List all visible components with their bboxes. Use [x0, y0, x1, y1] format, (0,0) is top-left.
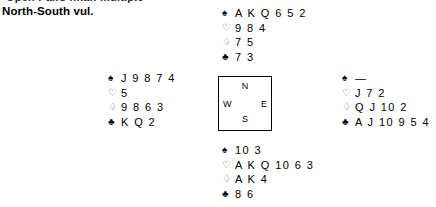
hand-south-clubs: 8 6 — [235, 187, 255, 202]
hand-west-clubs: K Q 2 — [121, 115, 156, 130]
vulnerability-label: North-South vul. — [2, 5, 94, 17]
hand-west-spades: J 9 8 7 4 — [121, 71, 176, 86]
hand-south: ♠ 10 3 ♡ A K Q 10 6 3 ♢ A K 4 ♣ 8 6 — [222, 143, 314, 201]
hand-north-club-row: ♣ 7 3 — [222, 50, 307, 65]
hand-east: ♠ — ♡ J 7 2 ♢ Q J 10 2 ♣ A J 10 9 5 4 — [342, 71, 430, 129]
compass-label-west: W — [223, 99, 232, 108]
club-icon: ♣ — [222, 50, 235, 65]
hand-south-hearts: A K Q 10 6 3 — [235, 158, 314, 173]
hand-south-diamonds: A K 4 — [235, 172, 268, 187]
hand-east-spades: — — [355, 71, 366, 86]
hand-south-spades: 10 3 — [235, 143, 262, 158]
compass-label-east: E — [261, 99, 267, 108]
diamond-icon: ♢ — [222, 35, 235, 50]
club-icon: ♣ — [108, 115, 121, 130]
hand-west-heart-row: ♡ 5 — [108, 86, 176, 101]
hand-east-spade-row: ♠ — — [342, 71, 430, 86]
spade-icon: ♠ — [108, 71, 121, 86]
hand-east-heart-row: ♡ J 7 2 — [342, 86, 430, 101]
diamond-icon: ♢ — [108, 100, 121, 115]
hand-north-spade-row: ♠ A K Q 6 5 2 — [222, 6, 307, 21]
heart-icon: ♡ — [222, 158, 235, 173]
hand-east-clubs: A J 10 9 5 4 — [355, 115, 430, 130]
heart-icon: ♡ — [342, 86, 355, 101]
hand-north-heart-row: ♡ 9 8 4 — [222, 21, 307, 36]
spade-icon: ♠ — [222, 6, 235, 21]
spade-icon: ♠ — [222, 143, 235, 158]
heart-icon: ♡ — [108, 86, 121, 101]
hand-west-club-row: ♣ K Q 2 — [108, 115, 176, 130]
hand-north-spades: A K Q 6 5 2 — [235, 6, 307, 21]
club-icon: ♣ — [222, 187, 235, 202]
hand-north-clubs: 7 3 — [235, 50, 255, 65]
clipped-header-line: Open Pairs final: multiple — [6, 0, 156, 3]
hand-east-diamonds: Q J 10 2 — [355, 100, 408, 115]
hand-north-hearts: 9 8 4 — [235, 21, 266, 36]
hand-east-diamond-row: ♢ Q J 10 2 — [342, 100, 430, 115]
hand-west-diamond-row: ♢ 9 8 6 3 — [108, 100, 176, 115]
hand-west-diamonds: 9 8 6 3 — [121, 100, 164, 115]
compass-label-north: N — [219, 82, 271, 91]
club-icon: ♣ — [342, 115, 355, 130]
heart-icon: ♡ — [222, 21, 235, 36]
compass-box: N W E S — [218, 76, 272, 131]
hand-west-spade-row: ♠ J 9 8 7 4 — [108, 71, 176, 86]
compass-label-south: S — [219, 115, 271, 124]
hand-west-hearts: 5 — [121, 86, 129, 101]
hand-west: ♠ J 9 8 7 4 ♡ 5 ♢ 9 8 6 3 ♣ K Q 2 — [108, 71, 176, 129]
spade-icon: ♠ — [342, 71, 355, 86]
hand-north: ♠ A K Q 6 5 2 ♡ 9 8 4 ♢ 7 5 ♣ 7 3 — [222, 6, 307, 64]
hand-south-spade-row: ♠ 10 3 — [222, 143, 314, 158]
hand-north-diamonds: 7 5 — [235, 35, 255, 50]
hand-south-diamond-row: ♢ A K 4 — [222, 172, 314, 187]
hand-south-club-row: ♣ 8 6 — [222, 187, 314, 202]
diamond-icon: ♢ — [342, 100, 355, 115]
hand-east-club-row: ♣ A J 10 9 5 4 — [342, 115, 430, 130]
diamond-icon: ♢ — [222, 172, 235, 187]
hand-east-hearts: J 7 2 — [355, 86, 386, 101]
hand-south-heart-row: ♡ A K Q 10 6 3 — [222, 158, 314, 173]
hand-north-diamond-row: ♢ 7 5 — [222, 35, 307, 50]
